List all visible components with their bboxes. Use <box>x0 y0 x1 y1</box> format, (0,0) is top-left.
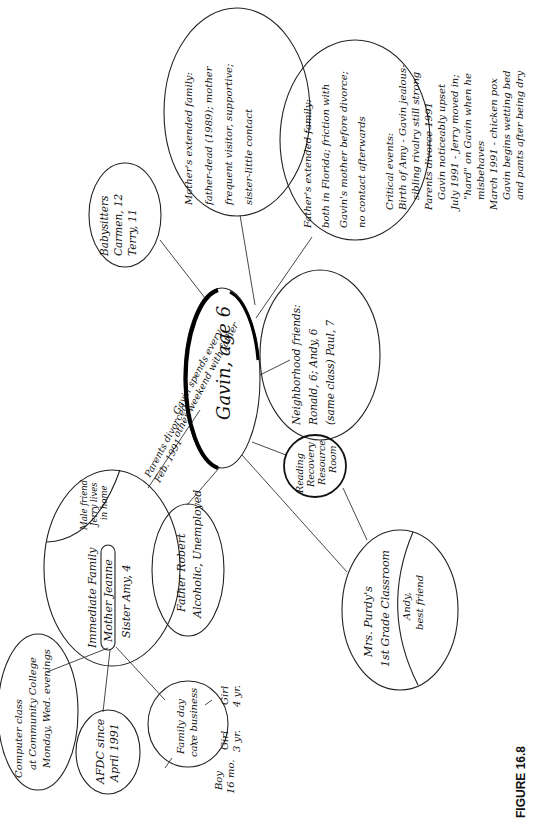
fathers-family-line-1: Father's extended family: <box>302 99 313 229</box>
classroom-andy-line-2: best friend <box>414 575 425 630</box>
critical-line-8: misbehaves <box>475 141 486 200</box>
fathers-family-line-2: both in Florida; friction with <box>320 84 331 228</box>
afdc-line-1: AFDC since <box>94 718 107 785</box>
male-friend-line-1: Male friend <box>79 479 89 531</box>
svg-text:AFDC since April 1991: AFDC since April 1991 <box>94 715 121 785</box>
fathers-family-line-4: no contact afterwards <box>356 116 367 228</box>
node-computer-class: Computer class at Community College Mond… <box>0 634 78 790</box>
node-day-care: Family day care business Boy 16 mo. Girl… <box>148 681 242 794</box>
svg-text:Male friend Jerry lives: Male friend Jerry lives in home <box>79 477 109 531</box>
connector-reading-classroom <box>343 488 367 540</box>
svg-text:Mother's extended family:: Mother's extended family: father-dead (1… <box>183 60 254 206</box>
child-girl3-line-1: Girl <box>219 731 230 750</box>
critical-line-11: and pants after being dry <box>514 71 525 200</box>
mother-jeanne-label: Mother Jeanne <box>102 559 115 643</box>
connector-neighborhood <box>260 360 290 375</box>
child-boy-line-2: 16 mo. <box>225 760 236 794</box>
sister-amy-label: Sister Amy, 4 <box>120 564 133 638</box>
svg-text:Neighborhood friends: Ro: Neighborhood friends: Ronald, 6; Andy, 6… <box>290 301 336 426</box>
node-father: Father Robert Alcoholic, Unemployed <box>152 490 224 636</box>
child-girl4-line-2: 4 yr. <box>231 685 242 708</box>
classroom-line-1: Mrs. Purdy's <box>362 586 375 658</box>
svg-text:Family day care business: Family day care business <box>175 688 199 757</box>
neighborhood-line-3: (same class) Paul, 7 <box>324 319 336 425</box>
neighborhood-line-2: Ronald, 6; Andy, 6 <box>307 328 319 426</box>
critical-line-10: Gavin begins wetting bed <box>501 70 512 200</box>
reading-recovery-line-4: Room <box>327 445 338 474</box>
babysitters-line-1: Babysitters <box>98 195 110 257</box>
babysitters-line-2: Carmen, 12 <box>112 193 124 256</box>
child-boy-line-1: Boy <box>213 771 224 791</box>
connector-babysitters <box>160 240 205 298</box>
node-neighborhood-friends: Neighborhood friends: Ronald, 6; Andy, 6… <box>260 270 380 440</box>
neighborhood-line-1: Neighborhood friends: <box>290 304 302 426</box>
critical-line-7: "hard" on Gavin when he <box>462 73 473 200</box>
svg-text:Andy, best friend: Andy, best friend <box>401 575 425 630</box>
child-girl3-line-2: 3 yr. <box>231 730 242 752</box>
svg-text:Girl 4 yr.: Girl 4 yr. <box>219 683 242 708</box>
reading-recovery-line-2: Recovery <box>305 442 316 488</box>
classroom-andy-line-1: Andy, <box>401 592 412 621</box>
ecomap-diagram: Gavin, age 6 Babysitters Carmen, 12 Terr… <box>0 0 539 823</box>
connector-mothers-family <box>240 215 255 305</box>
computer-class-line-1: Computer class <box>13 699 24 778</box>
critical-line-6: July 1991 - Jerry moved in; <box>449 74 460 212</box>
mothers-family-line-1: Mother's extended family: <box>183 72 194 206</box>
father-line-2: Alcoholic, Unemployed <box>191 490 204 619</box>
connector-child-girl-4 <box>205 700 212 705</box>
mothers-family-line-4: sister-little contact <box>243 108 254 205</box>
annotation-critical-events: Critical events: Birth of Amy - Gavin je… <box>384 61 525 212</box>
node-babysitters: Babysitters Carmen, 12 Terry, 11 <box>89 163 161 267</box>
node-reading-recovery: Reading Recovery Resource Room <box>284 435 346 497</box>
svg-text:Critical events: Birth o: Critical events: Birth of Amy - Gavin je… <box>384 61 525 212</box>
critical-line-2: Birth of Amy - Gavin jealous- <box>397 64 408 211</box>
mothers-family-line-3: frequent visitor, supportive; <box>223 64 234 206</box>
svg-text:Mrs. Purdy's 1st Grade C: Mrs. Purdy's 1st Grade Classroom <box>362 550 392 667</box>
connector-day-care <box>116 647 165 700</box>
critical-line-5: Gavin noticeably upset <box>436 83 447 200</box>
critical-line-9: March 1991 - chicken pox <box>488 78 499 211</box>
reading-recovery-line-1: Reading <box>294 453 305 494</box>
node-immediate-family: Immediate Family Mother Jeanne Sister Am… <box>44 470 180 666</box>
mothers-family-line-2: father-dead (1989); mother <box>203 65 214 206</box>
immediate-family-title: Immediate Family <box>86 547 99 649</box>
afdc-line-2: April 1991 <box>108 723 121 783</box>
critical-line-3: sibling rivalry still strong <box>410 72 421 200</box>
critical-line-1: Critical events: <box>384 133 395 210</box>
computer-class-line-2: at Community College <box>27 657 38 770</box>
svg-text:Babysitters Carmen, 12: Babysitters Carmen, 12 Terry, 11 <box>98 190 138 257</box>
svg-text:Computer class at Commun: Computer class at Community College Mond… <box>13 649 52 778</box>
male-friend-line-3: in home <box>99 485 109 520</box>
svg-text:Reading Recovery R: Reading Recovery Resource Room <box>294 437 338 494</box>
svg-text:Boy 16 mo.: Boy 16 mo. <box>213 760 236 794</box>
computer-class-line-3: Monday, Wed. evenings <box>41 649 52 769</box>
connector-afdc <box>103 650 110 712</box>
day-care-line-2: care business <box>188 688 199 757</box>
critical-line-4: Parents divorce 1991 <box>423 102 434 211</box>
day-care-line-1: Family day <box>175 699 186 755</box>
classroom-line-2: 1st Grade Classroom <box>379 550 392 667</box>
reading-recovery-line-3: Resource <box>316 440 327 486</box>
connector-reading-recovery <box>252 442 286 455</box>
fathers-family-line-3: Gavin's mother before divorce; <box>338 71 349 228</box>
connector-computer-class <box>47 648 108 672</box>
node-afdc: AFDC since April 1991 <box>76 710 140 794</box>
figure-label: FIGURE 16.8 <box>514 746 528 818</box>
svg-text:Father's extended family:: Father's extended family: both in Florid… <box>302 68 367 229</box>
father-line-1: Father Robert <box>175 533 188 613</box>
svg-text:Girl 3 yr.: Girl 3 yr. <box>219 728 242 752</box>
child-girl4-line-1: Girl <box>219 686 230 705</box>
babysitters-line-3: Terry, 11 <box>126 209 138 256</box>
male-friend-line-2: Jerry lives <box>89 482 99 528</box>
connector-fathers-family <box>256 237 312 318</box>
node-classroom: Mrs. Purdy's 1st Grade Classroom Andy, b… <box>342 530 458 690</box>
